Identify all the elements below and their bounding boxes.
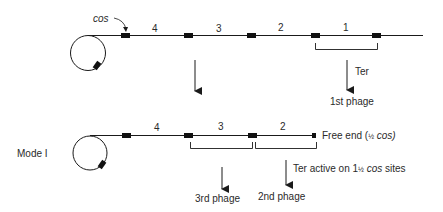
segment-label: 4 [154, 122, 160, 133]
first-phage-label: 1st phage [330, 96, 374, 107]
second-phage-bracket [256, 142, 317, 149]
cos-label: cos [93, 13, 109, 24]
second-phage-label: 2nd phage [258, 191, 306, 202]
free-end-half-cos [312, 133, 316, 138]
ter-label: Ter [355, 66, 370, 77]
third-phage-bracket [191, 142, 253, 149]
cos-pointer-arrowhead [123, 27, 128, 32]
segment-label: 3 [218, 121, 224, 132]
cos-site [372, 33, 381, 38]
ter-active-label: Ter active on 1½ cos sites [293, 163, 406, 174]
third-phage-label: 3rd phage [195, 193, 240, 204]
first-phage-bracket [316, 43, 378, 50]
free-end-label: Free end (½ cos) [322, 130, 396, 141]
cos-site [248, 133, 257, 138]
top-concatemer: cos 4 3 2 1 Ter 1st phage [71, 13, 424, 107]
segment-label: 2 [278, 22, 284, 33]
cos-site [184, 133, 193, 138]
segment-label: 1 [343, 22, 349, 33]
lambda-packaging-diagram: cos 4 3 2 1 Ter 1st phage Mode I 4 3 2 F… [0, 0, 443, 212]
top-circle-cos-site [93, 61, 102, 70]
top-circular-dna [71, 36, 106, 71]
cos-site [121, 33, 130, 38]
segment-label: 2 [280, 121, 286, 132]
segment-label: 3 [216, 23, 222, 34]
cos-site [184, 33, 193, 38]
segment-label: 4 [152, 23, 158, 34]
bottom-concatemer: Mode I 4 3 2 Free end (½ cos) Ter active… [17, 121, 406, 204]
cos-site [122, 133, 131, 138]
cos-site [311, 33, 320, 38]
mode-label: Mode I [17, 148, 48, 159]
cos-site [247, 33, 256, 38]
